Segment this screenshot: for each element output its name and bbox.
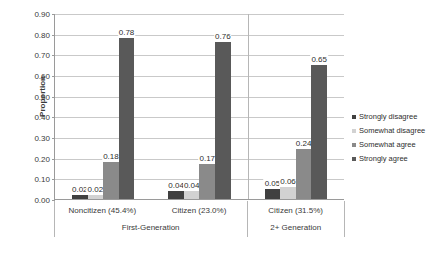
group-separator	[248, 14, 249, 199]
bar[interactable]	[265, 189, 281, 199]
x-axis-category-label: Citizen (31.5%)	[247, 201, 344, 215]
bar-value-label: 0.17	[198, 154, 216, 163]
legend-swatch-icon	[352, 157, 356, 161]
x-axis-group-label: 2+ Generation	[247, 219, 344, 232]
bars: 0.050.060.240.65	[248, 14, 344, 199]
x-axis-separator	[344, 201, 345, 237]
y-axis-tick-label: 0.80	[14, 30, 50, 39]
bar-chart: Proportion 0.900.800.700.600.500.400.300…	[0, 0, 433, 254]
bar[interactable]	[215, 42, 231, 199]
bar-groups: 0.020.020.180.780.040.040.170.760.050.06…	[55, 14, 344, 199]
bar-group: 0.050.060.240.65	[248, 14, 344, 199]
bar[interactable]	[199, 164, 215, 199]
legend-item[interactable]: Strongly agree	[352, 152, 432, 166]
legend-label: Somewhat disagree	[359, 126, 425, 136]
bar-wrapper: 0.76	[215, 14, 231, 199]
bar[interactable]	[296, 149, 312, 199]
y-axis-tick-label: 0.00	[14, 196, 50, 205]
legend-label: Strongly agree	[359, 154, 408, 164]
bar-wrapper: 0.65	[311, 14, 327, 199]
bar[interactable]	[184, 191, 200, 199]
bar-value-label: 0.24	[295, 139, 313, 148]
legend-item[interactable]: Strongly disagree	[352, 110, 432, 124]
y-axis-tick-label: 0.20	[14, 154, 50, 163]
bar-value-label: 0.78	[118, 28, 136, 37]
legend-label: Somewhat agree	[359, 140, 416, 150]
bar[interactable]	[168, 191, 184, 199]
bar-wrapper: 0.17	[199, 14, 215, 199]
y-axis-tick-label: 0.10	[14, 175, 50, 184]
bar-wrapper: 0.06	[280, 14, 296, 199]
y-axis-tick-label: 0.40	[14, 113, 50, 122]
bar-wrapper: 0.78	[119, 14, 135, 199]
bar-value-label: 0.65	[310, 55, 328, 64]
bar-wrapper: 0.02	[72, 14, 88, 199]
legend-label: Strongly disagree	[359, 112, 417, 122]
bar[interactable]	[311, 65, 327, 199]
bar-wrapper: 0.04	[184, 14, 200, 199]
bar-group: 0.040.040.170.76	[151, 14, 247, 199]
y-axis-tick-label: 0.90	[14, 10, 50, 19]
x-axis: Noncitizen (45.4%)Citizen (23.0%)Citizen…	[54, 201, 344, 243]
legend-swatch-icon	[352, 129, 356, 133]
x-axis-separator	[247, 201, 248, 237]
bar-wrapper: 0.05	[265, 14, 281, 199]
y-axis-tick-label: 0.50	[14, 92, 50, 101]
bar-wrapper: 0.02	[88, 14, 104, 199]
x-axis-category-label: Citizen (23.0%)	[151, 201, 248, 215]
bar-value-label: 0.04	[183, 181, 201, 190]
x-axis-category-labels: Noncitizen (45.4%)Citizen (23.0%)Citizen…	[54, 201, 344, 215]
bar-wrapper: 0.04	[168, 14, 184, 199]
x-axis-category-label: Noncitizen (45.4%)	[54, 201, 151, 215]
bar-group: 0.020.020.180.78	[55, 14, 151, 199]
legend: Strongly disagreeSomewhat disagreeSomewh…	[352, 110, 432, 166]
bar[interactable]	[72, 195, 88, 199]
bar-wrapper: 0.24	[296, 14, 312, 199]
bar[interactable]	[280, 187, 296, 199]
legend-swatch-icon	[352, 143, 356, 147]
x-axis-group-label: First-Generation	[54, 219, 247, 232]
bar[interactable]	[103, 162, 119, 199]
y-axis-tick-label: 0.30	[14, 134, 50, 143]
legend-item[interactable]: Somewhat agree	[352, 138, 432, 152]
bar[interactable]	[119, 38, 135, 199]
bars: 0.020.020.180.78	[55, 14, 151, 199]
bars: 0.040.040.170.76	[151, 14, 247, 199]
bar[interactable]	[88, 195, 104, 199]
bar-value-label: 0.02	[87, 185, 105, 194]
bar-value-label: 0.76	[214, 32, 232, 41]
legend-swatch-icon	[352, 115, 356, 119]
bar-value-label: 0.06	[279, 177, 297, 186]
bar-wrapper: 0.18	[103, 14, 119, 199]
y-axis-tick-labels: 0.900.800.700.600.500.400.300.200.100.00	[14, 14, 50, 200]
y-axis-tick-label: 0.70	[14, 51, 50, 60]
legend-item[interactable]: Somewhat disagree	[352, 124, 432, 138]
x-axis-separator	[54, 201, 55, 237]
bar-value-label: 0.18	[102, 152, 120, 161]
plot-area: 0.020.020.180.780.040.040.170.760.050.06…	[54, 14, 344, 200]
x-axis-group-labels: First-Generation2+ Generation	[54, 219, 344, 232]
y-axis-tick-label: 0.60	[14, 72, 50, 81]
